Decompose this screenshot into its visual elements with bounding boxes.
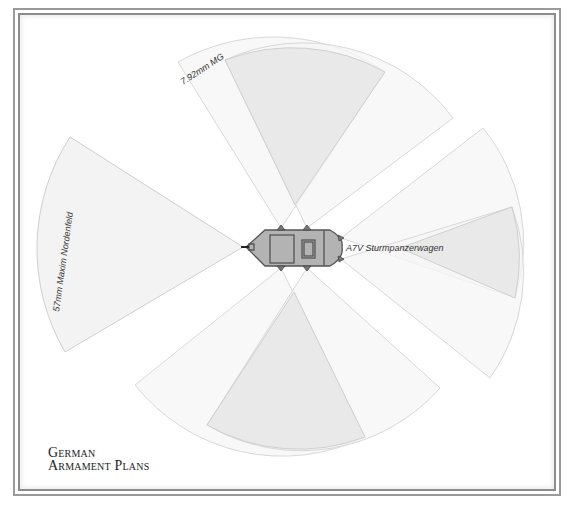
tank-hull — [241, 225, 344, 271]
vehicle-label: A7V Sturmpanzerwagen — [345, 243, 444, 253]
title-line-2: Armament Plans — [48, 459, 149, 472]
armament-diagram: A7V Sturmpanzerwagen 7.92mm MG 57mm Maxi… — [0, 0, 573, 509]
mg-nub — [277, 225, 285, 230]
diagram-title: German Armament Plans — [48, 446, 149, 472]
